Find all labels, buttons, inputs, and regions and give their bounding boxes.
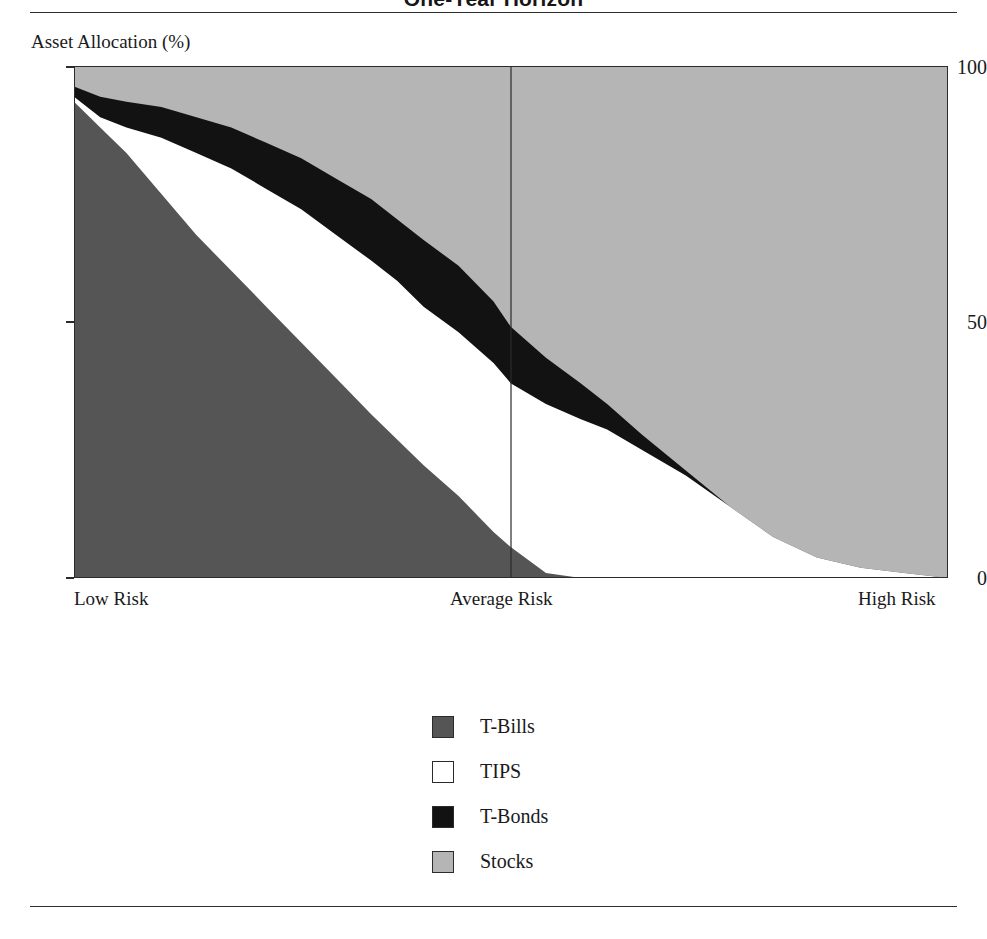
y-tick-mark-50	[66, 321, 74, 323]
top-divider-rule	[30, 12, 957, 13]
chart-legend: T-Bills TIPS T-Bonds Stocks	[432, 704, 548, 884]
legend-swatch-stocks	[432, 851, 454, 873]
legend-swatch-tips	[432, 761, 454, 783]
x-tick-label-low-risk: Low Risk	[74, 588, 148, 610]
legend-label-t-bonds: T-Bonds	[480, 805, 548, 828]
legend-label-t-bills: T-Bills	[480, 715, 535, 738]
legend-item-t-bonds: T-Bonds	[432, 794, 548, 839]
y-tick-mark-0	[66, 577, 74, 579]
stacked-area-chart	[74, 66, 948, 578]
legend-swatch-t-bills	[432, 716, 454, 738]
x-tick-label-high-risk: High Risk	[858, 588, 936, 610]
legend-item-t-bills: T-Bills	[432, 704, 548, 749]
legend-item-stocks: Stocks	[432, 839, 548, 884]
legend-swatch-t-bonds	[432, 806, 454, 828]
legend-item-tips: TIPS	[432, 749, 548, 794]
x-tick-label-average-risk: Average Risk	[450, 588, 553, 610]
y-tick-mark-100	[66, 66, 74, 68]
legend-label-tips: TIPS	[480, 760, 521, 783]
bottom-divider-rule	[30, 906, 957, 907]
figure-title: One-Year Horizon	[0, 0, 987, 11]
y-axis-caption: Asset Allocation (%)	[31, 31, 190, 53]
legend-label-stocks: Stocks	[480, 850, 533, 873]
chart-plot-area	[74, 66, 948, 578]
